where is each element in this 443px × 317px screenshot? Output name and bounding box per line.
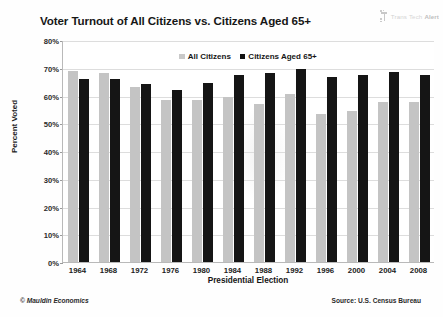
chart-container: Voter Turnout of All Citizens vs. Citize… [0, 0, 443, 317]
footer-copyright: © Mauldin Economics [20, 297, 89, 304]
bar[interactable] [347, 111, 357, 262]
x-tick-label: 1988 [247, 266, 281, 275]
x-tick-label: 1976 [154, 266, 188, 275]
chart-legend: All CitizensCitizens Aged 65+ [62, 52, 434, 61]
bar[interactable] [420, 75, 430, 262]
x-tick-label: 1972 [123, 266, 157, 275]
bar[interactable] [327, 77, 337, 262]
y-tick-label: 0% [33, 259, 59, 268]
y-axis-title: Percent Voted [10, 67, 19, 187]
bar[interactable] [141, 84, 151, 262]
brand-word-three: Alert [424, 13, 439, 20]
bar[interactable] [130, 87, 140, 262]
plot-area [62, 41, 434, 263]
bar[interactable] [358, 75, 368, 262]
x-tick-label: 1984 [216, 266, 250, 275]
x-tick-label: 2004 [371, 266, 405, 275]
bar-group [218, 41, 249, 262]
bar-group [125, 41, 156, 262]
x-tick-label: 2000 [340, 266, 374, 275]
chart-title: Voter Turnout of All Citizens vs. Citize… [40, 14, 340, 27]
x-tick-label: 1996 [309, 266, 343, 275]
y-tick-label: 10% [33, 231, 59, 240]
y-tick-label: 50% [33, 120, 59, 129]
bar[interactable] [378, 102, 388, 262]
legend-label: All Citizens [188, 52, 231, 61]
legend-entry[interactable]: All Citizens [179, 52, 231, 61]
footer-source: Source: U.S. Census Bureau [332, 297, 421, 304]
bar-group [404, 41, 435, 262]
x-tick-label: 1964 [61, 266, 95, 275]
bar[interactable] [265, 73, 275, 262]
y-axis: 0%10%20%30%40%50%60%70%80% [28, 41, 59, 263]
y-tick-label: 80% [33, 37, 59, 46]
x-tick-label: 2008 [402, 266, 436, 275]
bars-layer [63, 41, 434, 262]
bar[interactable] [203, 83, 213, 262]
bar[interactable] [409, 102, 419, 262]
bar-group [249, 41, 280, 262]
bar[interactable] [99, 73, 109, 262]
bar[interactable] [192, 100, 202, 262]
brand-word-one: Trans [391, 13, 407, 20]
bar[interactable] [223, 97, 233, 262]
bar[interactable] [285, 94, 295, 262]
bar[interactable] [161, 100, 171, 262]
bar[interactable] [79, 79, 89, 262]
bar-group [187, 41, 218, 262]
bar-group [311, 41, 342, 262]
bar-group [342, 41, 373, 262]
bar[interactable] [296, 69, 306, 262]
y-tick-label: 60% [33, 92, 59, 101]
bar[interactable] [172, 90, 182, 262]
bar[interactable] [389, 72, 399, 262]
bar[interactable] [316, 114, 326, 262]
bar[interactable] [110, 79, 120, 262]
transtech-logo-mark-icon [380, 10, 389, 22]
brand-logo: Trans Tech Alert [380, 10, 439, 22]
bar-group [280, 41, 311, 262]
y-tick-label: 30% [33, 175, 59, 184]
bar-group [373, 41, 404, 262]
brand-word-two: Tech [409, 13, 422, 20]
bar[interactable] [68, 71, 78, 262]
bar-group [156, 41, 187, 262]
y-tick-label: 70% [33, 64, 59, 73]
legend-entry[interactable]: Citizens Aged 65+ [240, 52, 317, 61]
bar-group [94, 41, 125, 262]
bar[interactable] [254, 104, 264, 262]
bar-group [63, 41, 94, 262]
legend-label: Citizens Aged 65+ [248, 52, 316, 61]
legend-swatch-icon [240, 54, 246, 60]
x-axis-title: Presidential Election [62, 276, 434, 285]
y-tick-label: 40% [33, 148, 59, 157]
y-tick-label: 20% [33, 203, 59, 212]
x-tick-label: 1968 [92, 266, 126, 275]
bar[interactable] [234, 75, 244, 262]
x-tick-label: 1992 [278, 266, 312, 275]
legend-swatch-icon [179, 54, 185, 60]
x-tick-label: 1980 [185, 266, 219, 275]
